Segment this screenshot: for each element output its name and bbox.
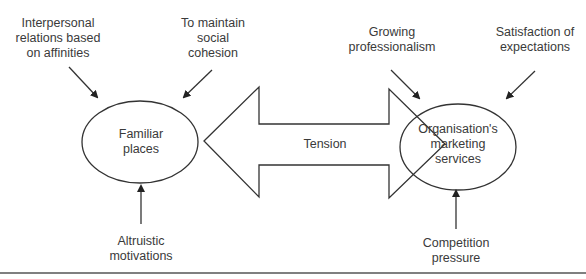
familiar-places-label: Familiar places	[119, 127, 163, 157]
competition-label: Competition pressure	[423, 236, 490, 266]
altruistic-label: Altruistic motivations	[109, 234, 172, 264]
social-cohesion-label: To maintain social cohesion	[181, 16, 245, 61]
satisfaction-arrow	[507, 71, 535, 98]
professionalism-arrow	[391, 70, 419, 98]
professionalism-label: Growing professionalism	[349, 25, 436, 55]
interpersonal-label: Interpersonal relations based on affinit…	[16, 16, 101, 61]
org-marketing-label: Organisation's marketing services	[418, 122, 498, 167]
interpersonal-arrow	[69, 67, 97, 97]
social-cohesion-arrow	[184, 70, 212, 97]
tension-label: Tension	[303, 137, 346, 152]
satisfaction-label: Satisfaction of expectations	[496, 25, 575, 55]
